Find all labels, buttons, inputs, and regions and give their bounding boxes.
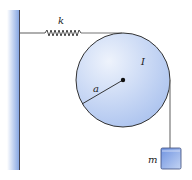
spring <box>20 30 122 36</box>
pulley-diagram: k a I m <box>0 0 192 180</box>
radius-label: a <box>93 83 99 94</box>
pulley-disc <box>76 33 170 127</box>
spring-constant-label: k <box>58 15 64 26</box>
wall <box>7 10 20 170</box>
axle-dot <box>121 78 125 82</box>
hanging-mass <box>161 148 181 169</box>
mass-label: m <box>148 154 157 165</box>
